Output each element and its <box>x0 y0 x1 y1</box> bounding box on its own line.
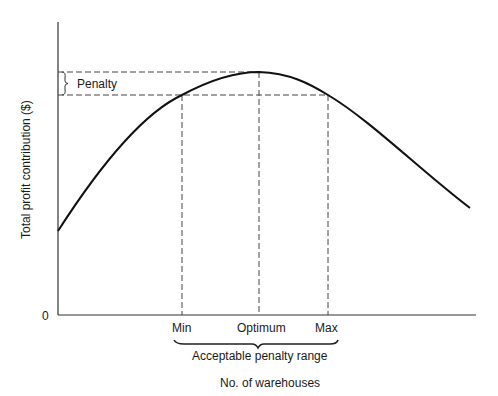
max-label: Max <box>315 321 338 335</box>
y-axis-label: Total profit contribution ($) <box>19 119 33 239</box>
range-brace <box>174 340 338 348</box>
y-origin-label: 0 <box>42 309 49 323</box>
min-label: Min <box>172 321 191 335</box>
x-axis-label: No. of warehouses <box>220 376 320 390</box>
chart-canvas <box>0 0 498 396</box>
profit-curve <box>58 72 470 231</box>
penalty-label: Penalty <box>77 77 117 91</box>
optimum-label: Optimum <box>237 321 286 335</box>
range-label: Acceptable penalty range <box>192 349 327 363</box>
penalty-brace <box>62 72 68 95</box>
